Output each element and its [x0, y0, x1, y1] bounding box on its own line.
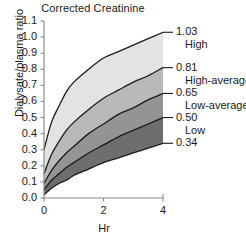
value-label-0.65: 0.65	[176, 86, 197, 98]
y-tick-label: 0.0	[4, 191, 37, 203]
value-label-1.03: 1.03	[176, 25, 197, 37]
category-label-high: High	[185, 38, 208, 50]
y-tick-label: 0.4	[4, 127, 37, 139]
category-label-low-average: Low-average	[185, 99, 246, 111]
y-tick-label: 0.2	[4, 159, 37, 171]
y-tick-label: 1.0	[4, 30, 37, 42]
value-label-0.81: 0.81	[176, 61, 197, 73]
category-label-low: Low	[185, 124, 205, 136]
x-tick-label: 0	[32, 204, 56, 216]
x-tick-label: 2	[92, 204, 116, 216]
y-tick-label: 0.9	[4, 46, 37, 58]
y-tick-label: 0.1	[4, 175, 37, 187]
y-tick-label: 0.6	[4, 94, 37, 106]
y-tick-label: 0.7	[4, 78, 37, 90]
value-label-0.34: 0.34	[176, 136, 197, 148]
value-label-0.50: 0.50	[176, 111, 197, 123]
y-tick-label: 0.8	[4, 62, 37, 74]
chart-figure: Corrected Creatinine Dialysate/plasma ra…	[0, 0, 246, 243]
category-label-high-average: High-average	[185, 74, 246, 86]
x-tick-label: 4	[151, 204, 175, 216]
y-tick-label: 0.3	[4, 143, 37, 155]
y-tick-label: 1.1	[4, 14, 37, 26]
y-tick-label: 0.5	[4, 111, 37, 123]
